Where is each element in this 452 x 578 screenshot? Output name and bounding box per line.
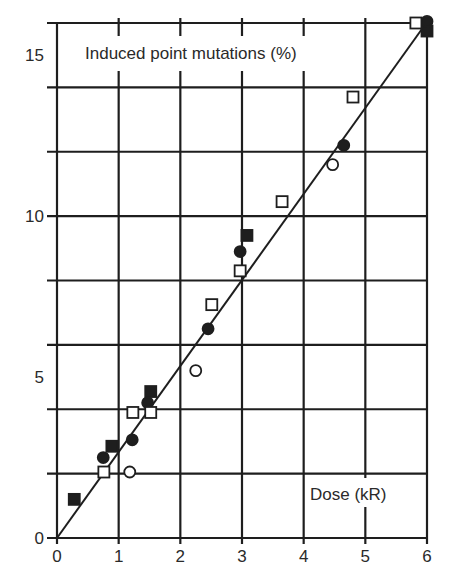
x-tick-label: 2: [176, 547, 185, 566]
open-square-marker: [127, 407, 138, 418]
filled-circle-marker: [338, 140, 349, 151]
open-square-marker: [98, 467, 109, 478]
filled-circle-marker: [235, 246, 246, 257]
open-circle-marker: [190, 365, 201, 376]
open-square-marker: [277, 196, 288, 207]
fit-line: [57, 26, 424, 538]
x-axis-title: Dose (kR): [310, 485, 387, 504]
x-tick-label: 1: [114, 547, 123, 566]
y-axis-title: Induced point mutations (%): [85, 44, 297, 63]
open-square-marker: [145, 407, 156, 418]
y-tick-label: 10: [25, 207, 44, 226]
filled-circle-marker: [127, 434, 138, 445]
regression-line: [57, 26, 424, 538]
open-circle-marker: [124, 467, 135, 478]
filled-circle-marker: [98, 452, 109, 463]
y-tick-label: 5: [35, 368, 44, 387]
x-tick-label: 3: [237, 547, 246, 566]
filled-circle-marker: [203, 323, 214, 334]
series-open-circles: [124, 159, 338, 477]
open-square-marker: [410, 18, 421, 29]
y-tick-label: 15: [25, 46, 44, 65]
filled-square-marker: [145, 386, 156, 397]
y-tick-label: 0: [35, 529, 44, 548]
x-tick-label: 0: [52, 547, 61, 566]
scatter-chart: 0123456051015 Induced point mutations (%…: [0, 0, 452, 578]
filled-square-marker: [106, 441, 117, 452]
open-square-marker: [206, 299, 217, 310]
filled-circle-marker: [422, 16, 433, 27]
x-tick-label: 5: [361, 547, 370, 566]
filled-square-marker: [69, 494, 80, 505]
filled-square-marker: [241, 230, 252, 241]
open-square-marker: [235, 265, 246, 276]
open-square-marker: [348, 92, 359, 103]
grid-lines: [47, 18, 427, 544]
x-tick-label: 4: [299, 547, 308, 566]
x-tick-label: 6: [422, 547, 431, 566]
series-filled-squares: [69, 26, 433, 505]
open-circle-marker: [327, 159, 338, 170]
